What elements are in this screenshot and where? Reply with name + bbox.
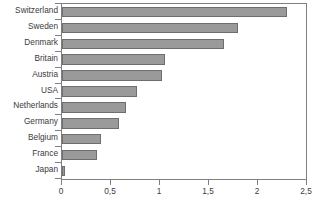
bar-usa [62, 86, 137, 97]
bar-japan [62, 166, 65, 177]
bar-germany [62, 118, 119, 129]
value-tick [306, 180, 307, 185]
value-axis-ticks [61, 180, 308, 185]
category-label-austria: Austria [0, 70, 58, 79]
bar-netherlands [62, 102, 126, 113]
bar-switzerland [62, 7, 287, 18]
value-tick [208, 180, 209, 185]
category-axis-ticks [55, 3, 61, 180]
bar-britain [62, 54, 165, 65]
bar-denmark [62, 39, 224, 50]
category-axis-labels: SwitzerlandSwedenDenmarkBritainAustriaUS… [0, 3, 58, 180]
category-label-netherlands: Netherlands [0, 101, 58, 110]
bar-chart: SwitzerlandSwedenDenmarkBritainAustriaUS… [0, 0, 327, 208]
category-label-usa: USA [0, 86, 58, 95]
category-tick [55, 67, 61, 68]
value-tick [110, 180, 111, 185]
category-tick [55, 98, 61, 99]
value-tick-label: 1 [157, 186, 162, 196]
category-tick [55, 3, 61, 4]
category-tick [55, 114, 61, 115]
category-tick [55, 35, 61, 36]
category-label-britain: Britain [0, 54, 58, 63]
value-tick [257, 180, 258, 185]
value-tick [61, 180, 62, 185]
bar-sweden [62, 23, 238, 34]
category-tick [55, 19, 61, 20]
category-label-belgium: Belgium [0, 133, 58, 142]
value-tick-label: 2,5 [300, 186, 312, 196]
value-tick [159, 180, 160, 185]
category-label-france: France [0, 149, 58, 158]
category-label-japan: Japan [0, 165, 58, 174]
category-tick [55, 146, 61, 147]
bar-series [62, 4, 307, 179]
value-tick-label: 1,5 [202, 186, 214, 196]
category-tick [55, 178, 61, 179]
category-tick [55, 51, 61, 52]
category-tick [55, 130, 61, 131]
value-tick-label: 0,5 [104, 186, 116, 196]
category-label-sweden: Sweden [0, 22, 58, 31]
value-tick-label: 2 [255, 186, 260, 196]
category-label-denmark: Denmark [0, 38, 58, 47]
category-tick [55, 162, 61, 163]
bar-austria [62, 70, 162, 81]
category-label-germany: Germany [0, 117, 58, 126]
bar-belgium [62, 134, 101, 145]
value-axis-labels: 00,511,522,5 [0, 186, 327, 200]
bar-france [62, 150, 97, 161]
category-label-switzerland: Switzerland [0, 6, 58, 15]
value-tick-label: 0 [59, 186, 64, 196]
category-tick [55, 83, 61, 84]
